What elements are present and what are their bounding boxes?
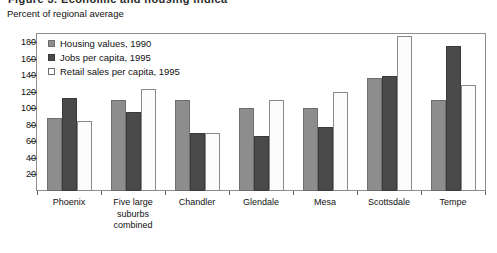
x-axis-tick [485,191,486,195]
x-axis-label: Five large suburbs combined [101,197,165,232]
x-axis-tick [421,191,422,195]
y-axis-label: 20 [10,170,36,179]
bar [126,112,141,191]
x-axis-label: Scottsdale [357,197,421,209]
y-axis-label: 160 [10,55,36,64]
y-axis-label: 80 [10,121,36,130]
bar [239,108,254,191]
x-axis-label: Glendale [229,197,293,209]
x-axis-label: Phoenix [37,197,101,209]
y-axis-label: 120 [10,88,36,97]
x-axis-tick [357,191,358,195]
legend-label: Housing values, 1990 [60,38,151,49]
legend-item: Retail sales per capita, 1995 [48,65,180,78]
bar [190,133,205,191]
bar [382,76,397,191]
bar [333,92,348,191]
legend-item: Housing values, 1990 [48,37,180,50]
bar [175,100,190,191]
x-axis-label: Tempe [421,197,485,209]
bar [269,100,284,191]
legend-item: Jobs per capita, 1995 [48,51,180,64]
bar-group [421,34,485,191]
bar [431,100,446,191]
bar [62,98,77,191]
x-axis-label: Mesa [293,197,357,209]
x-axis-tick [37,191,38,195]
bar [397,36,412,191]
x-axis-tick [229,191,230,195]
legend-label: Retail sales per capita, 1995 [60,66,180,77]
x-axis-tick [165,191,166,195]
bar [303,108,318,191]
y-axis-label: 40 [10,154,36,163]
y-axis-label: 60 [10,137,36,146]
legend-label: Jobs per capita, 1995 [60,52,151,63]
bar [318,127,333,191]
bar [367,78,382,191]
bar [461,85,476,191]
legend-swatch-icon [48,40,55,47]
bar [47,118,62,191]
x-axis-tick [101,191,102,195]
y-axis-label: 100 [10,104,36,113]
bar-group [357,34,421,191]
bar [77,121,92,191]
bar [205,133,220,191]
y-axis: 20406080100120140160180 [0,0,36,253]
cut-off-title: Figure 3. Economic and housing indicator… [8,0,228,7]
y-axis-label: 180 [10,38,36,47]
legend-swatch-icon [48,54,55,61]
x-axis-tick [293,191,294,195]
y-axis-label: 140 [10,71,36,80]
bar-group [293,34,357,191]
bar-group [229,34,293,191]
cut-off-title-text: Figure 3. Economic and housing indicator… [8,0,228,5]
bar [254,136,269,191]
bar [111,100,126,191]
legend-swatch-icon [48,68,55,75]
bar [446,46,461,191]
bar [141,89,156,191]
chart-legend: Housing values, 1990Jobs per capita, 199… [48,37,180,79]
x-axis-label: Chandler [165,197,229,209]
